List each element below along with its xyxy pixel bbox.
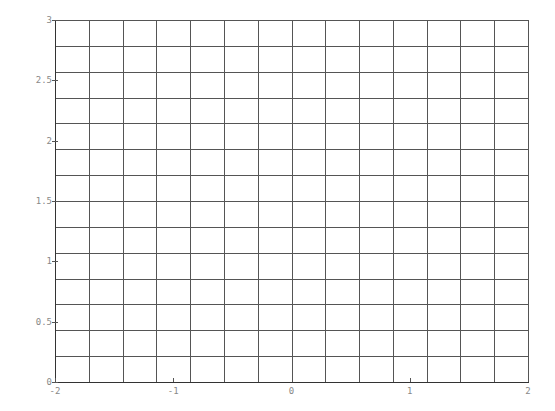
y-tick-label: 0.5 — [36, 317, 52, 327]
x-tick-label: 2 — [525, 386, 530, 396]
y-tick-label: 1.5 — [36, 196, 52, 206]
x-tick-label: 1 — [407, 386, 412, 396]
x-tick-label: -1 — [168, 386, 179, 396]
y-tick-label: 2 — [47, 136, 52, 146]
y-tick-label: 1 — [47, 256, 52, 266]
y-axis-ticks: 00.511.522.53 — [36, 15, 58, 387]
x-axis-ticks: -2-1012 — [50, 378, 531, 396]
y-tick-label: 2.5 — [36, 75, 52, 85]
y-tick-label: 0 — [47, 377, 52, 387]
x-tick-label: -2 — [50, 386, 61, 396]
chart: -2-1012 00.511.522.53 — [0, 0, 555, 411]
grid — [55, 20, 528, 382]
y-tick-label: 3 — [47, 15, 52, 25]
x-tick-label: 0 — [289, 386, 294, 396]
